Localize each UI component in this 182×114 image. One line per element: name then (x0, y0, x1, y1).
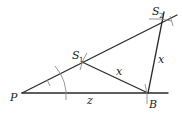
label-s2-subscript: 2 (159, 12, 163, 20)
ray-p-s2 (22, 15, 177, 93)
label-z: z (86, 94, 93, 107)
label-x-s1b: x (116, 65, 123, 78)
label-s1-subscript: 1 (79, 56, 83, 64)
label-p: P (9, 91, 18, 104)
label-x-bs2: x (158, 53, 165, 66)
label-b: B (148, 98, 157, 111)
segment-s1-b (82, 62, 148, 93)
geometric-construction-diagram: P S 1 S 2 B z x x (0, 0, 182, 114)
angle-tick-p (47, 80, 50, 86)
arc-mark-b (145, 84, 147, 104)
